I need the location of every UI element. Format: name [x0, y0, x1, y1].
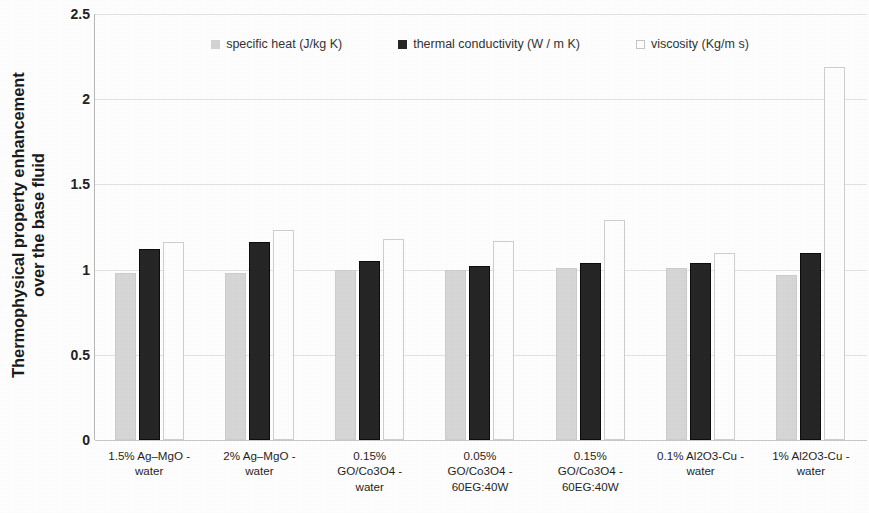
bar-viscosity	[604, 220, 625, 440]
bar-group	[535, 14, 645, 440]
bar-thermal	[249, 242, 270, 440]
y-tick-label: 1	[56, 262, 90, 278]
y-tick-label: 0	[56, 432, 90, 448]
y-axis-ticks: 00.511.522.5	[52, 0, 90, 513]
y-tick-label: 1.5	[56, 176, 90, 192]
bar-specific	[556, 268, 577, 440]
bar-thermal	[690, 263, 711, 440]
y-tick-label: 2	[56, 91, 90, 107]
x-axis-category-label: 0.15% GO/Co3O4 - 60EG:40W	[535, 448, 645, 494]
bar-group	[756, 14, 866, 440]
bar-specific	[445, 270, 466, 440]
y-axis-title: Thermophysical property enhancement over…	[0, 0, 56, 450]
gridline	[95, 440, 867, 441]
bar-viscosity	[163, 242, 184, 440]
x-axis-category-label: 0.05% GO/Co3O4 - 60EG:40W	[425, 448, 535, 494]
bar-viscosity	[273, 230, 294, 440]
bar-specific	[115, 273, 136, 440]
x-axis-category-label: 1.5% Ag–MgO - water	[94, 448, 204, 479]
y-tick-label: 0.5	[56, 347, 90, 363]
bar-chart-figure: Thermophysical property enhancement over…	[0, 0, 869, 513]
bar-thermal	[800, 253, 821, 440]
x-axis-category-label: 1% Al2O3-Cu - water	[756, 448, 866, 479]
y-axis-title-line-1: Thermophysical property enhancement	[9, 72, 27, 378]
bar-group	[315, 14, 425, 440]
bar-viscosity	[714, 253, 735, 440]
x-axis-labels: 1.5% Ag–MgO - water2% Ag–MgO - water0.15…	[94, 448, 866, 510]
bar-groups	[94, 14, 866, 440]
bar-group	[425, 14, 535, 440]
y-axis-title-line-2: over the base fluid	[28, 72, 48, 378]
y-tick-label: 2.5	[56, 6, 90, 22]
bar-viscosity	[824, 67, 845, 440]
bar-specific	[666, 268, 687, 440]
bar-specific	[225, 273, 246, 440]
bar-thermal	[359, 261, 380, 440]
bar-viscosity	[493, 241, 514, 440]
bar-group	[645, 14, 755, 440]
bar-thermal	[469, 266, 490, 440]
bar-group	[94, 14, 204, 440]
bar-group	[204, 14, 314, 440]
bar-specific	[776, 275, 797, 440]
x-axis-category-label: 0.1% Al2O3-Cu - water	[645, 448, 755, 479]
bar-thermal	[139, 249, 160, 440]
bar-specific	[335, 270, 356, 440]
x-axis-category-label: 2% Ag–MgO - water	[204, 448, 314, 479]
x-axis-category-label: 0.15% GO/Co3O4 - water	[315, 448, 425, 494]
bar-thermal	[580, 263, 601, 440]
bar-viscosity	[383, 239, 404, 440]
